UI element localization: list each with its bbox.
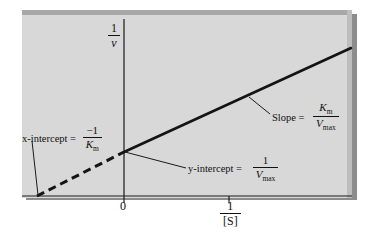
x-intercept-value: −1 Km (83, 125, 102, 153)
slope-annotation: Slope = Km Vmax (272, 102, 339, 132)
y-axis-label-denominator: v (108, 36, 120, 50)
y-intercept-value: 1 Vmax (253, 155, 279, 183)
slope-label-text: Slope = (272, 112, 304, 123)
slope-denominator: Vmax (313, 117, 339, 132)
x-axis-label: 1 [S] (220, 200, 241, 227)
y-intercept-annotation: y-intercept = 1 Vmax (188, 155, 278, 183)
x-intercept-numerator: −1 (83, 125, 102, 138)
y-intercept-numerator: 1 (253, 155, 279, 168)
panel-right-border (347, 10, 352, 198)
y-intercept-denominator: Vmax (253, 168, 279, 183)
panel-shadow-right (352, 14, 357, 200)
panel-top-border (22, 10, 352, 15)
x-axis-label-numerator: 1 (220, 200, 241, 214)
y-intercept-label-text: y-intercept = (188, 163, 242, 174)
y-axis-label: 1 v (108, 22, 120, 49)
lineweaver-burk-figure: 1 v 0 1 [S] x-intercept = −1 Km y-interc… (0, 0, 370, 240)
x-intercept-label-text: x-intercept = (22, 133, 76, 144)
y-axis-label-numerator: 1 (108, 22, 120, 36)
x-intercept-annotation: x-intercept = −1 Km (22, 125, 102, 153)
slope-numerator: Km (313, 102, 339, 117)
slope-value: Km Vmax (313, 102, 339, 132)
x-intercept-denominator: Km (83, 138, 102, 153)
x-axis-label-denominator: [S] (220, 214, 241, 228)
origin-label: 0 (120, 200, 126, 213)
